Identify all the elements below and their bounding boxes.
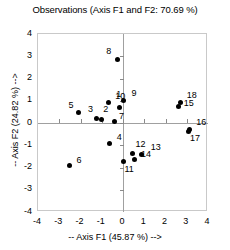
x-tick--3: [59, 119, 60, 123]
data-point-3[interactable]: [94, 116, 99, 121]
data-point-label-11: 11: [124, 165, 133, 174]
data-point-6[interactable]: [67, 163, 72, 168]
data-point-label-2: 2: [103, 105, 108, 114]
data-point-label-18: 18: [187, 91, 197, 100]
data-point-8[interactable]: [115, 57, 120, 62]
data-point-label-3: 3: [88, 105, 93, 114]
data-point-12[interactable]: [130, 151, 135, 156]
data-point-label-4: 4: [117, 133, 122, 142]
y-tick--1: [120, 145, 124, 146]
chart-root: Observations (Axis F1 and F2: 70.69 %) 1…: [0, 0, 230, 250]
data-point-label-13: 13: [151, 143, 161, 152]
chart-title: Observations (Axis F1 and F2: 70.69 %): [0, 4, 230, 15]
x-tick--2: [81, 119, 82, 123]
y-tick-0: [120, 123, 124, 124]
x-tick-1: [144, 119, 145, 123]
x-tick-label-3: 3: [178, 217, 194, 226]
data-point-label-6: 6: [76, 156, 81, 165]
data-point-label-14: 14: [141, 150, 151, 159]
x-tick-label-1: 1: [135, 217, 151, 226]
y-axis-title: -- Axis F2 (24.82 %) -->: [10, 50, 20, 190]
x-tick-label-0: 0: [114, 217, 130, 226]
data-point-label-7: 7: [119, 112, 124, 121]
y-tick--2: [120, 168, 124, 169]
data-point-label-5: 5: [68, 101, 73, 110]
data-point-label-10: 10: [115, 92, 125, 101]
data-point-4[interactable]: [107, 141, 112, 146]
data-point-label-9: 9: [131, 89, 136, 98]
x-tick-label-4: 4: [199, 217, 215, 226]
plot-area: 123456789101112131415161718: [37, 33, 207, 211]
x-axis-title: -- Axis F1 (45.87 %) -->: [0, 232, 230, 242]
y-tick-label-4: 4: [16, 29, 32, 38]
data-point-label-12: 12: [136, 140, 146, 149]
data-point-7[interactable]: [112, 119, 117, 124]
data-point-label-15: 15: [184, 99, 194, 108]
x-tick-label-2: 2: [157, 217, 173, 226]
data-point-15[interactable]: [176, 104, 181, 109]
x-tick-label--1: -1: [93, 217, 109, 226]
y-tick-3: [120, 56, 124, 57]
data-point-label-16: 16: [196, 118, 206, 127]
y-tick-label--4: -4: [16, 207, 32, 216]
y-tick-2: [120, 79, 124, 80]
data-point-label-17: 17: [190, 134, 200, 143]
data-point-14[interactable]: [132, 157, 137, 162]
x-tick-label--4: -4: [29, 217, 45, 226]
x-tick-label--2: -2: [72, 217, 88, 226]
data-point-18[interactable]: [178, 100, 183, 105]
x-tick-3: [187, 119, 188, 123]
data-point-5[interactable]: [76, 110, 81, 115]
x-tick-2: [166, 119, 167, 123]
data-point-10[interactable]: [117, 105, 122, 110]
data-point-label-8: 8: [106, 47, 111, 56]
y-tick--3: [120, 190, 124, 191]
x-tick-label--3: -3: [50, 217, 66, 226]
